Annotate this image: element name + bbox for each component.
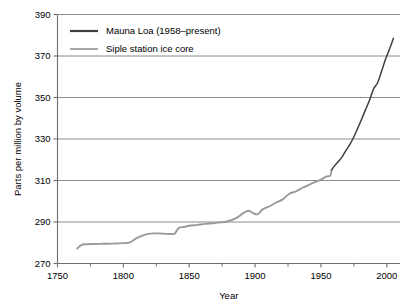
y-tick-label-310: 310 (35, 175, 51, 186)
legend-label-mauna-loa: Mauna Loa (1958–present) (106, 25, 221, 36)
chart-svg: 270290310330350370390 175018001850190019… (0, 0, 416, 307)
x-tick-label-1900: 1900 (245, 270, 266, 281)
x-tick-label-1850: 1850 (179, 270, 200, 281)
x-tick-label-2000: 2000 (376, 270, 397, 281)
y-tick-label-330: 330 (35, 133, 51, 144)
x-axis-title: Year (219, 290, 238, 301)
x-tick-label-1800: 1800 (113, 270, 134, 281)
y-tick-label-350: 350 (35, 92, 51, 103)
y-tick-label-390: 390 (35, 9, 51, 20)
co2-concentration-chart: 270290310330350370390 175018001850190019… (0, 0, 416, 307)
chart-background (0, 0, 416, 307)
y-tick-label-370: 370 (35, 50, 51, 61)
legend-label-siple: Siple station ice core (106, 43, 194, 54)
y-axis-title: Parts per million by volume (12, 82, 23, 196)
y-tick-label-290: 290 (35, 216, 51, 227)
x-tick-label-1950: 1950 (310, 270, 331, 281)
x-tick-label-1750: 1750 (47, 270, 68, 281)
y-tick-label-270: 270 (35, 258, 51, 269)
